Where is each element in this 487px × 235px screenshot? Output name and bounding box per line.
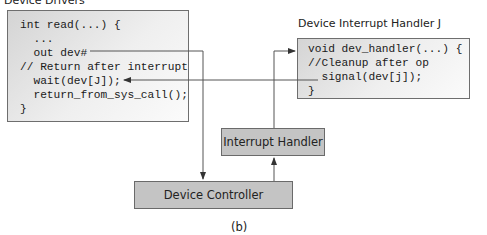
out-to-controller-arrow	[90, 51, 203, 179]
connector-lines	[0, 0, 487, 235]
figure-caption: (b)	[231, 220, 247, 234]
interrupt-to-handler-j-arrow	[274, 51, 295, 128]
